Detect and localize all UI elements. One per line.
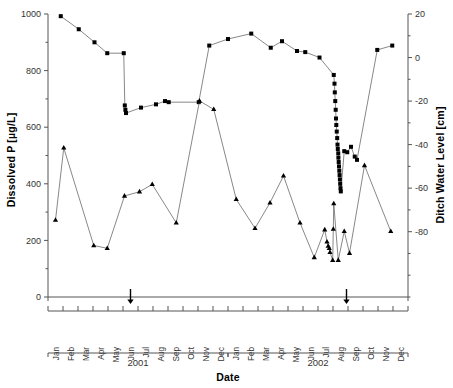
data-point-square [355,158,359,162]
figure-container: Dissolved P [µg/L] Ditch Water Level [cm… [0,0,453,388]
data-point-triangle [211,107,216,112]
data-point-square [336,156,340,160]
data-point-triangle [297,220,302,225]
data-point-square [349,145,353,149]
y-right-tick-label: -60 [415,183,428,193]
data-point-triangle [322,227,327,232]
y-axis-right-title: Ditch Water Level [cm] [434,106,446,223]
data-point-square [124,111,128,115]
data-point-square [375,48,379,52]
y-axis-left-title: Dissolved P [µg/L] [5,113,17,208]
y-right-tick-label: 20 [415,9,425,19]
data-point-triangle [137,189,142,194]
y-left-tick-label: 400 [26,179,41,189]
data-point-square [154,102,158,106]
data-point-triangle [324,239,329,244]
data-point-triangle [234,197,239,202]
data-point-square [295,49,299,53]
data-point-square [59,14,63,18]
data-point-square [335,130,339,134]
data-point-square [249,32,253,36]
axes-layer: 02004006008001000200-20-40-60-80 [21,9,428,302]
data-point-square [122,51,126,55]
x-tick-label-month: Nov [202,346,211,361]
data-point-square [334,123,338,127]
series-path [61,16,393,191]
data-point-square [105,51,109,55]
data-point-square [345,150,349,154]
data-point-square [336,143,340,147]
x-tick-label-month: May [112,346,121,362]
data-point-triangle [312,255,317,260]
x-axis-year-label: 2001 [127,357,148,368]
x-tick-label-month: Nov [382,346,391,361]
x-tick-label-month: Sep [172,347,181,362]
data-point-triangle [61,145,66,150]
series-ditch-water-level [59,14,395,193]
data-point-square [390,44,394,48]
x-tick-label-month: May [292,346,301,362]
data-point-square [333,99,337,103]
series-dissolved-p [53,98,393,262]
x-tick-label-month: Jul [322,347,331,358]
data-point-square [269,46,273,50]
x-axis-layer: JanFebMarAprMayJunJulAugSepOctNovDecJanF… [48,306,408,368]
data-layer [53,14,394,262]
x-tick-label-month: Dec [217,347,226,362]
data-point-triangle [388,228,393,233]
data-point-square [280,39,284,43]
data-point-square [338,177,342,181]
data-point-square [336,151,340,155]
data-point-square [163,99,167,103]
data-point-square [336,147,340,151]
data-point-square [337,160,341,164]
data-point-triangle [336,257,341,262]
y-left-tick-label: 200 [26,236,41,246]
data-point-triangle [267,200,272,205]
x-tick-label-month: Feb [247,347,256,362]
y-right-tick-label: -20 [415,96,428,106]
data-point-square [123,103,127,107]
data-point-triangle [53,217,58,222]
y-left-tick-label: 1000 [21,9,41,19]
x-tick-label-month: Aug [337,347,346,362]
data-point-square [93,40,97,44]
data-point-triangle [330,257,335,262]
data-point-triangle [347,250,352,255]
data-point-square [333,90,337,94]
data-point-square [337,169,341,173]
y-right-tick-label: -40 [415,140,428,150]
data-point-square [139,106,143,110]
data-point-square [226,37,230,41]
x-tick-label-month: Aug [157,347,166,362]
data-point-square [77,27,81,31]
x-tick-label-month: Jul [142,347,151,358]
data-point-triangle [91,243,96,248]
x-axis-title: Date [216,371,240,383]
data-point-square [318,56,322,60]
data-point-square [334,108,338,112]
y-left-tick-label: 600 [26,122,41,132]
data-point-square [303,50,307,54]
data-point-triangle [331,201,336,206]
x-tick-label-month: Mar [82,347,91,361]
y-right-tick-label: 0 [415,53,420,63]
data-point-square [333,82,337,86]
data-point-triangle [331,226,336,231]
y-left-tick-label: 0 [36,292,41,302]
data-point-square [332,73,336,77]
data-point-triangle [174,220,179,225]
data-point-square [167,100,171,104]
data-point-triangle [281,173,286,178]
data-point-square [207,44,211,48]
data-point-triangle [327,249,332,254]
x-tick-label-month: Feb [67,347,76,362]
x-tick-label-month: Mar [262,347,271,361]
dissolved-p-ditch-water-level-chart: Dissolved P [µg/L] Ditch Water Level [cm… [0,0,453,388]
y-left-tick-label: 800 [26,66,41,76]
data-point-square [338,173,342,177]
data-point-triangle [362,163,367,168]
data-point-square [337,164,341,168]
y-right-tick-label: -80 [415,227,428,237]
data-point-triangle [150,182,155,187]
